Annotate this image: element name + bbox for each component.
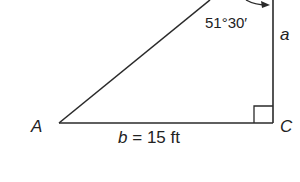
right-angle-marker (254, 106, 273, 123)
triangle-diagram: 51°30′ a A C b = 15 ft (0, 0, 300, 182)
angle-arrow-icon (261, 1, 270, 8)
side-b-eq: = (132, 128, 142, 147)
triangle-figure (0, 0, 300, 182)
side-b-value: 15 ft (147, 128, 180, 147)
side-a-label: a (280, 25, 289, 45)
vertex-c-label: C (280, 117, 292, 137)
side-b-var: b (118, 128, 127, 147)
vertex-a-label: A (31, 117, 42, 137)
hypotenuse (59, 0, 210, 123)
side-b-label: b = 15 ft (118, 128, 180, 148)
angle-label: 51°30′ (205, 14, 247, 31)
